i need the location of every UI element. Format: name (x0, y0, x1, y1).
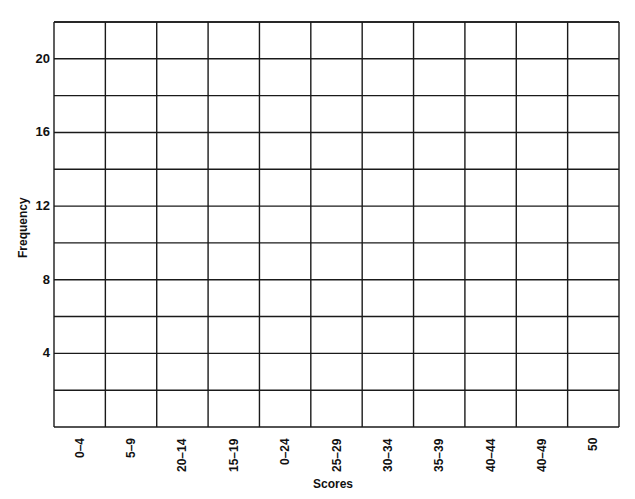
x-tick-label: 20–14 (175, 439, 189, 472)
x-axis-label: Scores (313, 477, 353, 491)
x-tick-label: 15–19 (227, 439, 241, 472)
y-tick-label: 16 (10, 124, 50, 139)
x-tick-label: 30–34 (381, 439, 395, 472)
chart-grid (0, 0, 635, 499)
y-tick-label: 8 (10, 272, 50, 287)
x-tick-label: 5–9 (124, 438, 138, 458)
y-tick-label: 4 (10, 345, 50, 360)
x-tick-label: 35–39 (432, 439, 446, 472)
histogram-grid-chart: 48121620 0–45–920–1415–190–2425–2930–343… (0, 0, 635, 499)
x-tick-label: 40–44 (484, 439, 498, 472)
x-tick-label: 0–24 (278, 438, 292, 465)
y-axis-label: Frequency (16, 197, 30, 258)
x-tick-label: 50 (586, 438, 600, 451)
y-tick-label: 20 (10, 51, 50, 66)
x-tick-label: 40–49 (535, 439, 549, 472)
x-tick-label: 25–29 (330, 439, 344, 472)
x-tick-label: 0–4 (73, 438, 87, 458)
